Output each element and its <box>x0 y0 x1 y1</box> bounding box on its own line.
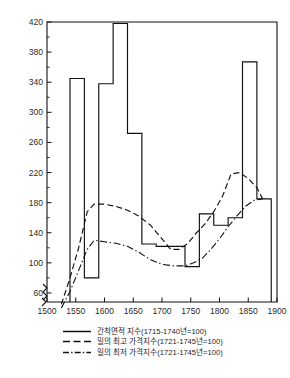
svg-text:1700: 1700 <box>153 306 172 316</box>
svg-text:1500: 1500 <box>38 306 57 316</box>
chart-plot-svg: 60100140180220260300340380420 1500155016… <box>0 0 290 320</box>
legend-label-min-price: 밀의 최저 가격지수(1721-1745년=100) <box>97 348 223 357</box>
svg-text:1900: 1900 <box>268 306 287 316</box>
svg-text:180: 180 <box>29 198 43 208</box>
legend-item-reclamation: 간척면적 지수(1715-1740년=100) <box>62 327 286 337</box>
svg-text:140: 140 <box>29 228 43 238</box>
y-axis-ticks: 60100140180220260300340380420 <box>29 17 52 298</box>
svg-text:380: 380 <box>29 47 43 57</box>
legend-item-min-price: 밀의 최저 가격지수(1721-1745년=100) <box>62 347 286 357</box>
dashed-line-key <box>62 337 92 346</box>
svg-text:260: 260 <box>29 137 43 147</box>
svg-text:420: 420 <box>29 17 43 27</box>
dash-dot-line-key <box>62 348 92 357</box>
chart-legend: 간척면적 지수(1715-1740년=100) 밀의 최고 가격지수(1721-… <box>62 327 286 358</box>
svg-text:1750: 1750 <box>181 306 200 316</box>
legend-label-max-price: 밀의 최고 가격지수(1721-1745년=100) <box>97 337 223 346</box>
svg-text:60: 60 <box>34 288 44 298</box>
svg-text:1800: 1800 <box>210 306 229 316</box>
series-reclamation-area-step <box>70 24 271 302</box>
legend-item-max-price: 밀의 최고 가격지수(1721-1745년=100) <box>62 337 286 347</box>
chart-page: 60100140180220260300340380420 1500155016… <box>0 0 290 378</box>
series-wheat-min-price <box>61 199 262 308</box>
y-axis-break-marker <box>43 284 47 300</box>
svg-text:100: 100 <box>29 258 43 268</box>
svg-text:300: 300 <box>29 107 43 117</box>
x-axis-ticks: 150015501600165017001750180018501900 <box>38 298 287 317</box>
svg-text:220: 220 <box>29 168 43 178</box>
svg-text:1550: 1550 <box>66 306 85 316</box>
svg-text:1600: 1600 <box>95 306 114 316</box>
svg-text:1650: 1650 <box>124 306 143 316</box>
svg-text:340: 340 <box>29 77 43 87</box>
svg-text:1850: 1850 <box>239 306 258 316</box>
legend-label-reclamation: 간척면적 지수(1715-1740년=100) <box>97 327 207 336</box>
solid-line-key <box>62 327 92 336</box>
series-wheat-max-price <box>61 173 262 305</box>
chart-figure: 60100140180220260300340380420 1500155016… <box>0 0 290 320</box>
